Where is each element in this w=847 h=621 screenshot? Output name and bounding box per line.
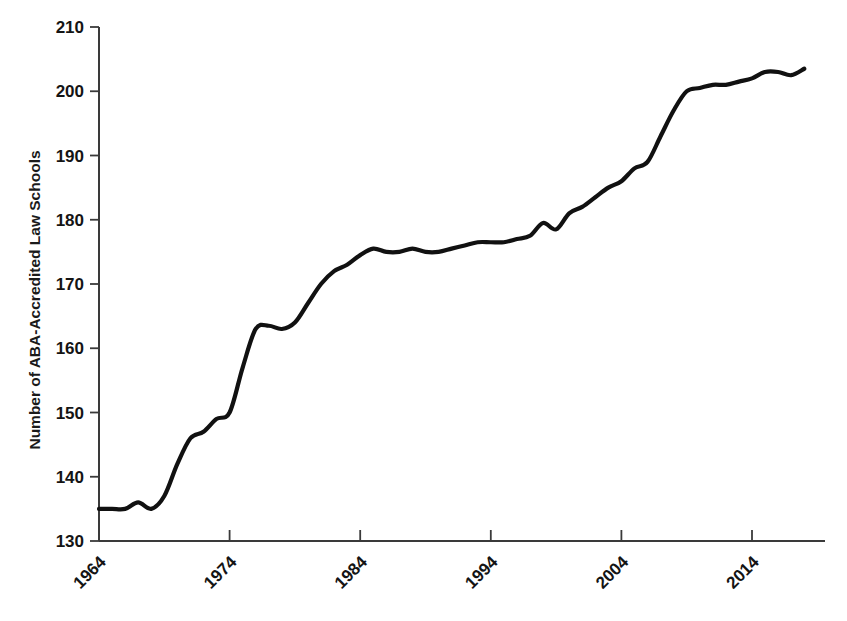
x-axis-tick-marks [230, 530, 752, 541]
y-axis-tick-labels: 210200190180170160150140130 [56, 18, 84, 551]
x-tick-label: 1984 [331, 552, 372, 593]
chart-figure: Number of ABA-Accredited Law Schools 210… [0, 0, 847, 621]
y-axis-label: Number of ABA-Accredited Law Schools [26, 150, 43, 449]
line-chart: Number of ABA-Accredited Law Schools 210… [0, 0, 847, 621]
y-tick-label: 190 [56, 147, 84, 166]
x-tick-label: 2004 [592, 552, 633, 593]
y-axis-tick-marks [90, 27, 99, 541]
y-tick-label: 210 [56, 18, 84, 37]
y-tick-label: 140 [56, 468, 84, 487]
y-tick-label: 180 [56, 211, 84, 230]
x-tick-label: 1974 [200, 552, 241, 593]
x-axis-tick-labels: 196419741984199420042014 [70, 552, 764, 593]
y-tick-label: 150 [56, 404, 84, 423]
y-tick-label: 160 [56, 339, 84, 358]
y-tick-label: 200 [56, 82, 84, 101]
x-tick-label: 1994 [461, 552, 502, 593]
x-tick-label: 2014 [723, 552, 764, 593]
y-tick-label: 170 [56, 275, 84, 294]
data-series-line [99, 69, 804, 510]
y-tick-label: 130 [56, 532, 84, 551]
x-tick-label: 1964 [70, 552, 111, 593]
